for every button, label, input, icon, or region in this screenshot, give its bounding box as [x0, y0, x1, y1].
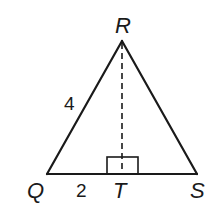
vertex-label-R: R [115, 13, 131, 38]
vertex-label-S: S [190, 178, 205, 203]
length-label-QR: 4 [64, 93, 75, 114]
vertex-label-T: T [113, 178, 128, 203]
length-label-QT: 2 [76, 180, 87, 201]
side-RS [122, 41, 197, 174]
side-QR [47, 41, 122, 174]
triangle-diagram: R Q T S 4 2 [0, 0, 212, 214]
vertex-label-Q: Q [27, 178, 44, 203]
